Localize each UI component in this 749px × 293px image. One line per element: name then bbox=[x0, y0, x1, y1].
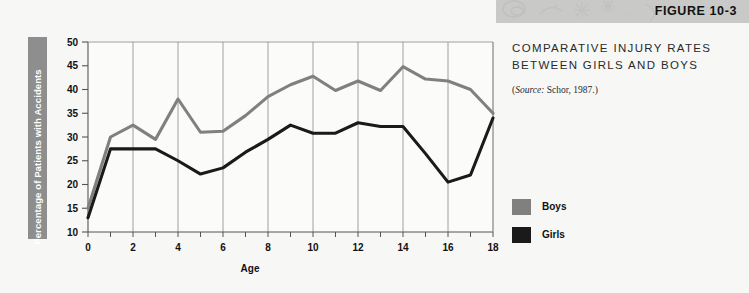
legend-label-boys: Boys bbox=[542, 201, 566, 212]
y-axis-ticks: 101520253035404550 bbox=[67, 37, 88, 238]
figure-number-label: FIGURE 10-3 bbox=[655, 4, 737, 18]
figure-title-line-2: BETWEEN GIRLS AND BOYS bbox=[512, 57, 742, 74]
legend-swatch-girls bbox=[512, 227, 531, 243]
y-tick-label-30: 30 bbox=[67, 132, 79, 143]
x-tick-label-18: 18 bbox=[487, 242, 499, 253]
y-tick-label-35: 35 bbox=[67, 108, 79, 119]
figure-page: FIGURE 10-3 COMPARATIVE INJURY RATES BET… bbox=[0, 0, 749, 293]
source-citation: Schor, 1987.) bbox=[544, 85, 597, 95]
figure-title: COMPARATIVE INJURY RATES BETWEEN GIRLS A… bbox=[512, 40, 742, 74]
x-tick-label-10: 10 bbox=[307, 242, 319, 253]
y-tick-label-50: 50 bbox=[67, 37, 79, 48]
y-tick-label-15: 15 bbox=[67, 203, 79, 214]
x-tick-label-16: 16 bbox=[442, 242, 454, 253]
figure-source-note: (Source: Schor, 1987.) bbox=[512, 85, 742, 95]
chart-plot-area: 101520253035404550 024681012141618 bbox=[0, 0, 500, 262]
figure-header-band: FIGURE 10-3 bbox=[496, 0, 749, 23]
plot-background-group bbox=[88, 42, 493, 232]
source-label: Source: bbox=[515, 85, 544, 95]
y-tick-label-20: 20 bbox=[67, 179, 79, 190]
legend-item-girls: Girls bbox=[512, 224, 566, 245]
x-axis-label: Age bbox=[0, 263, 500, 274]
legend-item-boys: Boys bbox=[512, 196, 566, 217]
x-tick-label-2: 2 bbox=[130, 242, 136, 253]
x-tick-label-14: 14 bbox=[397, 242, 409, 253]
plot-background bbox=[88, 42, 493, 232]
x-tick-label-4: 4 bbox=[175, 242, 181, 253]
line-chart: Percentage of Patients with Accidents 10… bbox=[0, 0, 500, 293]
legend-label-girls: Girls bbox=[542, 229, 565, 240]
chart-legend: Boys Girls bbox=[512, 196, 566, 252]
figure-title-line-1: COMPARATIVE INJURY RATES bbox=[512, 40, 742, 57]
x-axis-ticks: 024681012141618 bbox=[85, 232, 499, 253]
x-tick-label-12: 12 bbox=[352, 242, 364, 253]
x-tick-label-8: 8 bbox=[265, 242, 271, 253]
figure-caption-panel: COMPARATIVE INJURY RATES BETWEEN GIRLS A… bbox=[512, 40, 742, 95]
x-tick-label-0: 0 bbox=[85, 242, 91, 253]
y-tick-label-25: 25 bbox=[67, 155, 79, 166]
legend-swatch-boys bbox=[512, 199, 531, 215]
y-tick-label-40: 40 bbox=[67, 84, 79, 95]
y-tick-label-45: 45 bbox=[67, 60, 79, 71]
x-tick-label-6: 6 bbox=[220, 242, 226, 253]
y-tick-label-10: 10 bbox=[67, 227, 79, 238]
